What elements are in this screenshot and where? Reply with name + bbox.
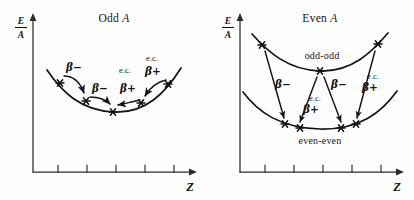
label-even-even: even-even <box>299 135 342 146</box>
x-axis-label-even-a: Z <box>392 180 401 194</box>
odd-a-parabola <box>47 68 181 112</box>
x-axis-label-odd-a: Z <box>185 180 194 194</box>
panel-title-odd-a-text: Odd <box>98 12 122 24</box>
panel-even-a: E A Z Even A <box>222 12 404 194</box>
panel-title-odd-a: Odd A <box>98 12 130 24</box>
y-axis-label-even-a: E A <box>222 16 234 40</box>
y-axis-denominator-odd-a: A <box>17 30 24 40</box>
x-axis-even-a <box>240 165 404 175</box>
panel-odd-a: E A Z Odd A β− β− β+ β+ <box>15 12 197 194</box>
y-axis-numerator-even-a: E <box>224 16 231 26</box>
arrow-beta-minus-lower <box>90 97 110 104</box>
label-ec-inner-odd-a: e.c. <box>119 65 131 75</box>
y-axis-denominator-even-a: A <box>224 30 231 40</box>
panel-title-even-a: Even A <box>302 12 338 24</box>
y-axis-numerator-odd-a: E <box>17 16 24 26</box>
label-ec-center-even-a: e.c. <box>309 93 321 103</box>
label-beta-minus-upper-odd-a: β− <box>65 61 82 73</box>
label-beta-plus-right-even-a: β+ <box>361 81 378 93</box>
label-ec-right-even-a: e.c. <box>367 71 379 81</box>
panel-title-even-a-text: Even <box>302 12 330 24</box>
panel-title-even-a-italic: A <box>329 12 338 24</box>
label-beta-plus-lower-odd-a: β+ <box>119 82 136 94</box>
y-axis-odd-a <box>30 13 37 172</box>
label-beta-plus-center-even-a: β+ <box>302 103 319 115</box>
label-beta-plus-upper-odd-a: β+ <box>144 65 161 77</box>
label-odd-odd: odd-odd <box>305 50 340 61</box>
label-beta-minus-center-even-a: β− <box>330 78 347 90</box>
x-axis-odd-a <box>33 165 197 175</box>
arrow-beta-plus-upper <box>145 80 166 96</box>
nuclear-mass-parabola-figure: E A Z Odd A β− β− β+ β+ <box>0 0 414 200</box>
label-beta-minus-lower-odd-a: β− <box>91 82 108 94</box>
y-axis-label-odd-a: E A <box>15 16 27 40</box>
arrow-beta-minus-upper <box>64 76 84 93</box>
label-beta-minus-left-even-a: β− <box>274 78 291 90</box>
label-ec-outer-odd-a: e.c. <box>146 53 158 63</box>
panel-title-odd-a-italic: A <box>121 12 130 24</box>
